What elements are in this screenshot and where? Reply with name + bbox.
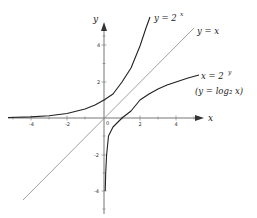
- label-logarithm: x = 2 y (y = log₂ x): [195, 68, 243, 96]
- x-axis: -4 -2 2 4 0 x: [8, 113, 213, 127]
- y-axis-label: y: [92, 14, 99, 24]
- label-identity-line: y = x: [196, 26, 219, 36]
- origin-label: 0: [106, 120, 109, 126]
- svg-text:(y = log₂ x): (y = log₂ x): [195, 86, 243, 96]
- svg-text:x: x: [180, 10, 184, 17]
- curve-logarithm: [105, 75, 199, 191]
- label-exponential: y = 2 x: [153, 10, 184, 23]
- x-axis-arrow-icon: [195, 115, 204, 121]
- y-tick-label: -4: [94, 188, 99, 194]
- x-tick-label: -2: [65, 121, 70, 127]
- y-axis-arrow-icon: [101, 22, 107, 31]
- y-tick-label: 2: [97, 79, 100, 85]
- x-axis-label: x: [208, 113, 213, 123]
- x-tick-label: -4: [29, 121, 34, 127]
- svg-text:y = 2: y = 2: [153, 13, 177, 23]
- svg-text:x = 2: x = 2: [201, 71, 224, 81]
- x-tick-label: 4: [175, 121, 178, 127]
- svg-text:y: y: [227, 68, 232, 76]
- curve-exponential: [8, 17, 150, 118]
- line-y-equals-x: [23, 28, 194, 200]
- y-axis: 4 2 -2 -4 y: [92, 14, 107, 214]
- y-tick-label: 4: [97, 42, 100, 48]
- graph-canvas: -4 -2 2 4 0 x 4 2 -2 -4 y: [0, 0, 257, 218]
- x-tick-label: 2: [139, 121, 142, 127]
- y-tick-label: -2: [94, 152, 99, 158]
